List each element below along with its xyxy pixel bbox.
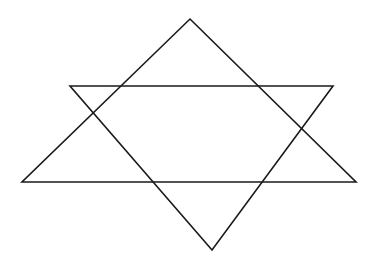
geometric-figure-svg: [0, 0, 378, 266]
figure-background: [0, 0, 378, 266]
figure-canvas: [0, 0, 378, 266]
